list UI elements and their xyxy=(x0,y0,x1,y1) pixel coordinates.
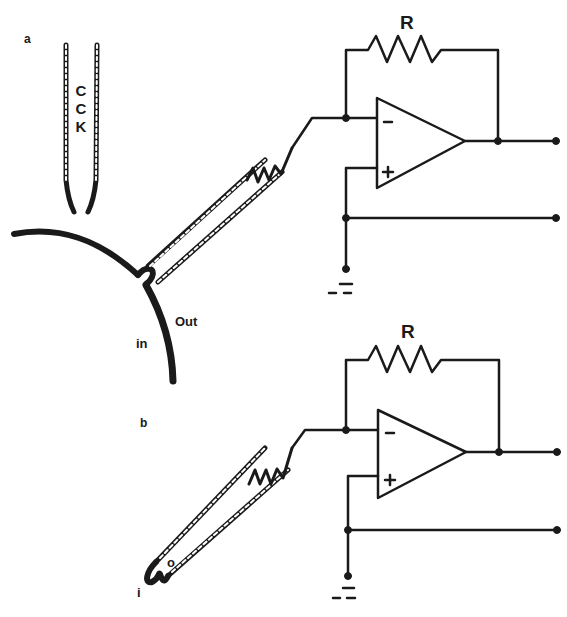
patch-inside-label: i xyxy=(137,586,141,599)
vessel-in-label: in xyxy=(136,337,148,350)
patch-electrode-b xyxy=(147,430,346,582)
patch-outside-label: o xyxy=(167,556,175,569)
panel-label-b: b xyxy=(140,417,147,429)
tissue-membrane xyxy=(14,231,173,381)
feedback-resistor-label-a: R xyxy=(400,13,414,32)
cck-letter-1: C xyxy=(75,82,87,100)
panel-label-a: a xyxy=(24,33,31,45)
feedback-resistor-label-b: R xyxy=(401,322,415,341)
cck-letter-3: K xyxy=(75,118,87,136)
cck-letter-2: C xyxy=(75,100,87,118)
vessel-out-label: Out xyxy=(175,315,197,328)
amplifier-circuit-a xyxy=(329,36,560,293)
patch-electrode-a xyxy=(148,118,346,282)
amplifier-circuit-b xyxy=(333,346,561,598)
